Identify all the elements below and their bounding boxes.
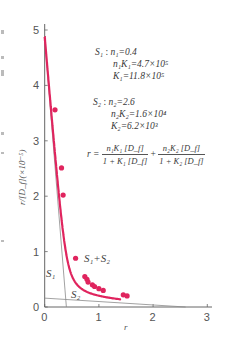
data-point [101,288,106,293]
margin-scrap [1,56,4,59]
x-tick-label: 0 [41,311,47,323]
s1-params: S₁ : n₁=0.4 n₁K₁=4.7×10⁵ K₁=11.8×10⁵ [95,46,168,82]
s1-k1: K₁=11.8×10⁵ [113,71,164,81]
data-point [73,256,78,261]
s2-n2k2: n₂K₂=1.6×10⁴ [111,109,166,119]
s2-k2: K₂=6.2×10³ [111,121,158,131]
x-tick-label: 3 [204,311,210,323]
s2-params: S₂ : n₂=2.6 n₂K₂=1.6×10⁴ K₂=6.2×10³ [93,96,166,132]
term-2-denominator: 1 + K₂ [D_f] [158,155,204,167]
equation-plus: + [151,149,156,159]
data-point [85,279,90,284]
x-axis-title: r [124,322,128,332]
data-points [52,107,129,298]
data-point [124,293,129,298]
term-1-numerator: n₁K₁ [D_f] [102,142,148,155]
equation-term-2: n₂K₂ [D_f] 1 + K₂ [D_f] [158,142,204,167]
margin-scrap [1,152,4,154]
y-tick-label: 1 [33,246,39,258]
s1-n1k1: n₁K₁=4.7×10⁵ [113,59,168,69]
s2-line-label: S₂ [71,288,81,300]
y-tick-label: 3 [33,135,39,147]
y-tick-label: 0 [33,301,39,313]
y-tick-label: 5 [33,24,39,36]
s2-n2: n₂=2.6 [108,97,134,107]
margin-scrap [1,132,4,135]
x-tick-label: 2 [150,311,156,323]
s1-line-label: S₁ [46,267,56,279]
s1-label: S₁ [95,47,103,57]
equation-term-1: n₁K₁ [D_f] 1 + K₁ [D_f] [102,142,148,167]
x-tick-label: 1 [95,311,101,323]
s2-label: S₂ [93,97,101,107]
margin-scrap [1,30,4,34]
data-point [61,192,66,197]
binding-equation: r = n₁K₁ [D_f] 1 + K₁ [D_f] + n₂K₂ [D_f]… [87,142,205,167]
term-1-denominator: 1 + K₁ [D_f] [102,155,148,167]
equation-lhs: r = [87,149,99,159]
y-tick-label: 2 [33,190,39,202]
s1-n1: n₁=0.4 [110,47,136,57]
data-point [59,165,64,170]
term-2-numerator: n₂K₂ [D_f] [158,142,204,155]
margin-scrap [1,240,4,242]
margin-scrap [1,70,4,76]
data-point [52,107,57,112]
y-tick-label: 4 [33,79,39,91]
sum-curve-label: S₁+S₂ [84,252,110,264]
y-axis-title: r/[D_f](×10⁻⁵) [17,150,27,205]
